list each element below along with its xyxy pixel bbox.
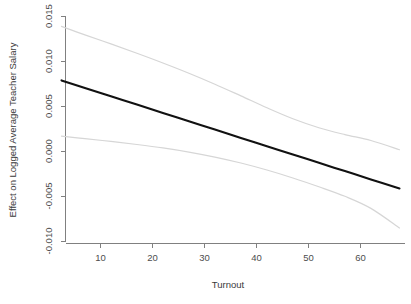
series-group [62, 26, 400, 228]
y-tick-label-4: -0.005 [43, 183, 54, 210]
series-ci-upper-line [62, 26, 400, 149]
x-tick-label-0: 10 [95, 252, 106, 263]
series-fit-line [62, 80, 400, 188]
x-tick-label-1: 20 [147, 252, 158, 263]
y-tick-label-1: 0.010 [43, 49, 54, 73]
y-axis-group: 0.015 0.010 0.005 0.000 -0.005 -0.010 Ef… [7, 4, 66, 254]
y-axis-title: Effect on Logged Average Teacher Salary [7, 42, 18, 217]
chart-plot-svg: 0.015 0.010 0.005 0.000 -0.005 -0.010 Ef… [0, 0, 411, 304]
x-tick-label-5: 60 [355, 252, 366, 263]
y-tick-label-0: 0.015 [43, 4, 54, 28]
x-axis-title: Turnout [212, 279, 245, 290]
y-tick-label-5: -0.010 [43, 228, 54, 255]
x-axis-group: 10 20 30 40 50 60 Turnout [66, 244, 406, 291]
x-tick-label-3: 40 [251, 252, 262, 263]
x-tick-label-2: 30 [199, 252, 210, 263]
chart-container: 0.015 0.010 0.005 0.000 -0.005 -0.010 Ef… [0, 0, 411, 304]
y-tick-label-3: 0.000 [43, 139, 54, 163]
y-tick-label-2: 0.005 [43, 94, 54, 118]
x-tick-label-4: 50 [303, 252, 314, 263]
series-ci-lower-line [62, 136, 400, 228]
